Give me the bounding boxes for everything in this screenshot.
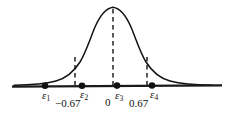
tick-label-zero: 0 xyxy=(105,97,111,108)
tick-label-negative-067: −0.67 xyxy=(55,98,80,109)
label-epsilon-3: ε3 xyxy=(115,90,123,102)
epsilon-3-subscript: 3 xyxy=(120,94,124,103)
normal-distribution-figure: ε1 ε2 ε3 ε4 −0.67 0 0.67 xyxy=(0,0,236,114)
epsilon-4-subscript: 4 xyxy=(155,93,159,102)
tick-label-positive-067: 0.67 xyxy=(129,98,148,109)
epsilon-3-symbol: ε xyxy=(115,89,119,101)
epsilon-2-subscript: 2 xyxy=(85,93,89,102)
epsilon-1-subscript: 1 xyxy=(47,94,51,103)
epsilon-2-symbol: ε xyxy=(80,88,84,100)
label-epsilon-4: ε4 xyxy=(150,89,158,101)
epsilon-1-symbol: ε xyxy=(42,89,46,101)
point-marker-epsilon-3 xyxy=(114,82,121,89)
epsilon-4-symbol: ε xyxy=(150,88,154,100)
label-epsilon-2: ε2 xyxy=(80,89,88,101)
label-epsilon-1: ε1 xyxy=(42,90,50,102)
